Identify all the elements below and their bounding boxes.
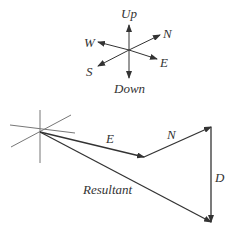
north-label: N	[162, 26, 173, 41]
west-arrow	[98, 42, 129, 50]
north-vector-label: N	[166, 127, 177, 142]
diagram-svg: Up Down N S E W E N D Resultant	[0, 0, 232, 233]
origin-axes	[10, 110, 75, 163]
north-arrow	[129, 35, 160, 50]
east-vector-label: E	[105, 131, 114, 146]
resultant-vector	[40, 132, 211, 222]
east-vector	[40, 132, 144, 157]
compass-rose: Up Down N S E W	[84, 6, 173, 96]
south-label: S	[86, 64, 93, 79]
east-arrow	[129, 50, 157, 59]
down-vector-label: D	[214, 170, 225, 185]
east-label: E	[159, 55, 168, 70]
south-arrow	[98, 50, 129, 66]
vector-diagram: Up Down N S E W E N D Resultant	[0, 0, 232, 233]
up-label: Up	[121, 6, 137, 21]
we-axis	[10, 125, 75, 133]
resultant-label: Resultant	[82, 182, 132, 197]
west-label: W	[84, 35, 96, 50]
north-vector	[144, 127, 211, 157]
down-label: Down	[113, 81, 145, 96]
